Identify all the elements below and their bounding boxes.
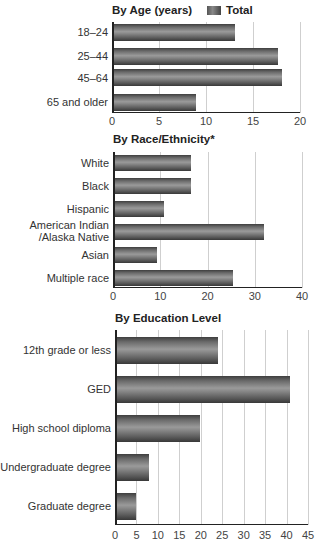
bar [114,247,157,263]
category-label: American Indian/Alaska Native [30,219,110,243]
x-tick-label: 30 [238,529,250,541]
chart-title: By Race/Ethnicity* [113,133,215,145]
x-tick-label: 40 [280,529,292,541]
x-tick-label: 15 [247,115,259,127]
bar [113,24,235,41]
category-label: Undergraduate degree [0,461,111,473]
category-label: White [81,157,109,169]
gridline [208,152,209,288]
category-label: Graduate degree [28,500,111,512]
x-axis-ticks: 05101520 [112,115,300,129]
x-tick-label: 30 [249,290,261,302]
x-tick-label: 20 [195,529,207,541]
x-tick-label: 35 [259,529,271,541]
chart-title: By Age (years) [112,4,192,16]
x-tick-label: 25 [216,529,228,541]
bar [113,69,282,86]
chart-age: By Age (years) Total 18–2425–4445–6465 a… [0,0,324,130]
bar [114,224,264,240]
category-label: Black [82,180,109,192]
y-axis-line [112,22,114,113]
gridline [287,330,288,525]
x-tick-label: 20 [294,115,306,127]
bar [114,270,233,286]
category-label: 65 and older [47,96,108,108]
x-tick-label: 10 [154,290,166,302]
plot-area [112,22,300,113]
x-axis-line [115,524,308,526]
bar [116,415,200,442]
chart-title: By Education Level [115,312,221,324]
bar [116,337,218,364]
category-label: 25–44 [77,50,108,62]
x-tick-label: 5 [156,115,162,127]
x-tick-label: 5 [133,529,139,541]
bar [114,178,191,194]
x-tick-label: 0 [110,290,116,302]
category-label: Multiple race [47,272,109,284]
gridline [244,330,245,525]
legend: Total [207,4,253,16]
gridline [253,22,254,113]
gridline [160,152,161,288]
gridline [302,152,303,288]
x-tick-label: 40 [296,290,308,302]
gridline [308,330,309,525]
x-tick-label: 45 [302,529,314,541]
x-tick-label: 10 [200,115,212,127]
x-axis-line [113,287,302,289]
gridline [255,152,256,288]
category-labels: WhiteBlackHispanicAmerican Indian/Alaska… [0,152,109,288]
bar [116,376,290,403]
category-label: GED [87,383,111,395]
category-label: Asian [81,249,109,261]
x-axis-ticks: 051015202530354045 [115,529,308,543]
bar [113,48,278,65]
bar [116,454,149,481]
gridline [300,22,301,113]
y-axis-line [115,330,117,525]
x-tick-label: 0 [112,529,118,541]
category-label: Hispanic [67,203,109,215]
gridline [222,330,223,525]
gridline [265,330,266,525]
category-label: High school diploma [12,422,111,434]
chart-education: By Education Level 12th grade or lessGED… [0,310,324,548]
x-tick-label: 0 [109,115,115,127]
x-tick-label: 10 [152,529,164,541]
category-label: 45–64 [77,72,108,84]
plot-area [113,152,302,288]
bar [116,493,136,520]
x-axis-line [112,112,300,114]
legend-label: Total [226,4,253,16]
category-label: 12th grade or less [23,344,111,356]
chart-race-ethnicity: By Race/Ethnicity* WhiteBlackHispanicAme… [0,130,324,310]
category-labels: 12th grade or lessGEDHigh school diploma… [0,330,111,525]
category-label: 18–24 [77,26,108,38]
x-tick-label: 15 [173,529,185,541]
bar [114,201,164,217]
x-tick-label: 20 [201,290,213,302]
x-axis-ticks: 010203040 [113,290,302,304]
y-axis-line [113,152,115,288]
bar [113,94,196,111]
legend-swatch-icon [207,6,221,15]
bar [114,155,191,171]
category-labels: 18–2425–4445–6465 and older [0,22,108,113]
plot-area [115,330,308,525]
